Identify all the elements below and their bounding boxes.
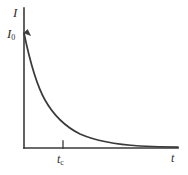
i0-subscript: 0: [11, 33, 15, 42]
decay-curve: [24, 33, 178, 147]
plot-canvas: [0, 0, 188, 175]
y-axis-label: I: [13, 6, 17, 19]
x-axis-label: t: [171, 152, 174, 164]
tc-subscript: c: [60, 158, 64, 167]
x-axis-tick-label-tc: tc: [57, 153, 64, 165]
exponential-decay-figure: I I0 tc t: [0, 0, 188, 175]
y-axis-initial-value-label: I0: [7, 27, 15, 40]
